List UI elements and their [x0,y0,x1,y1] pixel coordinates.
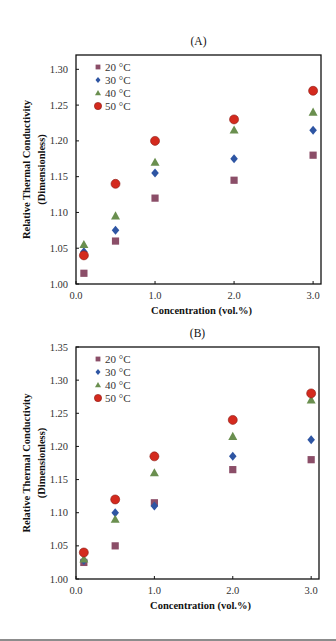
y-tick-label: 1.00 [50,279,68,290]
diamond-marker-icon [309,126,317,135]
series-40c [79,395,315,562]
legend-label: 20 °C [105,61,131,73]
y-tick-label: 1.35 [50,342,68,353]
y-axis-label-units: (Dimensionless) [36,134,48,205]
square-marker-icon [96,357,101,362]
triangle-marker-icon [111,515,120,523]
triangle-marker-icon [79,240,88,248]
square-marker-icon [230,177,237,184]
legend-label: 40 °C [105,87,131,99]
y-tick-label: 1.05 [50,243,68,254]
y-tick-label: 1.10 [50,207,68,218]
diamond-marker-icon [95,369,100,375]
y-tick-label: 1.20 [50,135,68,146]
x-tick-label: 2.0 [226,585,239,596]
triangle-marker-icon [95,90,101,95]
series-50c [79,389,315,557]
y-tick-label: 1.15 [50,474,68,485]
triangle-marker-icon [228,432,237,440]
x-tick-label: 0.0 [69,585,82,596]
x-tick-label: 3.0 [307,290,320,301]
circle-marker-icon [150,452,159,461]
circle-marker-icon [111,179,120,188]
legend-label: 30 °C [105,366,131,378]
legend-label: 50 °C [105,392,131,404]
panel-title: (A) [191,35,207,48]
legend-label: 30 °C [105,74,131,86]
y-tick-label: 1.00 [50,574,68,585]
triangle-marker-icon [111,211,120,219]
x-axis-label: Concentration (vol.%) [151,305,252,317]
circle-marker-icon [230,115,239,124]
circle-marker-icon [307,389,316,398]
square-marker-icon [308,456,315,463]
figure: (A)1.001.051.101.151.201.251.300.01.02.0… [0,0,336,641]
y-axis-label-units: (Dimensionless) [36,427,48,498]
diamond-marker-icon [229,452,237,461]
triangle-marker-icon [230,125,239,133]
square-marker-icon [151,195,158,202]
diamond-marker-icon [112,226,120,235]
diamond-marker-icon [95,77,100,83]
y-tick-label: 1.10 [50,507,68,518]
square-marker-icon [229,466,236,473]
triangle-marker-icon [151,158,160,166]
y-tick-label: 1.20 [50,441,68,452]
circle-marker-icon [79,548,88,557]
diamond-marker-icon [307,435,315,444]
square-marker-icon [112,542,119,549]
legend: 20 °C30 °C40 °C50 °C [94,353,130,404]
y-tick-label: 1.05 [50,540,68,551]
diamond-marker-icon [230,154,238,163]
y-tick-label: 1.15 [50,171,68,182]
legend: 20 °C30 °C40 °C50 °C [94,61,130,112]
chart-panel-a: (A)1.001.051.101.151.201.251.300.01.02.0… [21,35,321,317]
square-marker-icon [309,152,316,159]
circle-marker-icon [79,251,88,260]
chart-panel-b: (B)1.001.051.101.151.201.251.301.350.01.… [21,327,319,612]
x-axis-label: Concentration (vol.%) [150,600,251,612]
x-tick-label: 1.0 [148,290,161,301]
circle-marker-icon [309,86,318,95]
diamond-marker-icon [151,169,159,178]
series-30c [80,126,317,257]
circle-marker-icon [151,136,160,145]
x-tick-label: 3.0 [305,585,318,596]
legend-label: 40 °C [105,379,131,391]
y-axis-label: Relative Thermal Conductivity [21,393,32,533]
square-marker-icon [80,270,87,277]
y-tick-label: 1.30 [50,375,68,386]
y-tick-label: 1.25 [50,100,68,111]
triangle-marker-icon [150,468,159,476]
circle-marker-icon [111,495,120,504]
legend-label: 20 °C [105,353,131,365]
y-axis-label: Relative Thermal Conductivity [21,99,32,239]
x-tick-label: 0.0 [69,290,82,301]
y-tick-label: 1.25 [50,408,68,419]
square-marker-icon [112,237,119,244]
x-tick-label: 1.0 [148,585,161,596]
square-marker-icon [96,65,101,70]
triangle-marker-icon [95,382,101,387]
circle-marker-icon [94,102,101,109]
circle-marker-icon [228,415,237,424]
circle-marker-icon [94,394,101,401]
panel-title: (B) [190,327,206,340]
triangle-marker-icon [309,108,318,116]
legend-label: 50 °C [105,100,131,112]
x-tick-label: 2.0 [228,290,241,301]
y-tick-label: 1.30 [50,64,68,75]
